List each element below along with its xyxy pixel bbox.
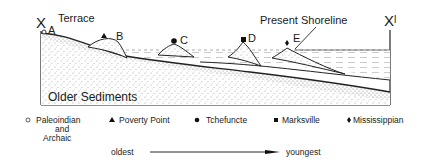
site-c-filled-circle-icon xyxy=(171,38,177,44)
section-start-label: X xyxy=(36,14,46,31)
timeline-start-label: oldest xyxy=(111,147,134,157)
arrow-right-icon xyxy=(265,150,280,154)
timeline-end-label: youngest xyxy=(286,147,321,157)
legend-marksville: Marksville xyxy=(282,115,320,125)
legend-poverty-point: Poverty Point xyxy=(119,115,170,125)
section-end-label: Xˡ xyxy=(384,12,396,29)
cross-section-diagram: X Terrace A B C D E Present Shoreline Xˡ… xyxy=(0,0,439,167)
site-d-square-icon xyxy=(241,37,246,42)
timeline: oldest youngest xyxy=(111,147,321,157)
legend-archaic: Archaic xyxy=(43,133,72,143)
legend-mississippian: Mississippian xyxy=(353,115,404,125)
legend-open-circle-icon xyxy=(26,118,30,122)
older-sediments-label: Older Sediments xyxy=(48,90,137,104)
legend-filled-circle-icon xyxy=(195,118,200,123)
shoreline-label: Present Shoreline xyxy=(260,14,347,26)
site-b-label: B xyxy=(116,30,123,42)
site-c-label: C xyxy=(180,34,188,46)
site-d-label: D xyxy=(248,32,256,44)
terrace-label: Terrace xyxy=(58,12,95,24)
legend-tchefuncte: Tchefuncte xyxy=(206,115,247,125)
site-a-label: A xyxy=(48,24,56,36)
site-e-diamond-icon xyxy=(285,40,289,46)
site-b-triangle-icon xyxy=(101,33,107,38)
legend: Paleoindian and Archaic Poverty Point Tc… xyxy=(26,115,404,143)
legend-square-icon xyxy=(274,118,278,122)
site-e-label: E xyxy=(293,32,300,44)
legend-triangle-icon xyxy=(109,117,115,122)
legend-diamond-icon xyxy=(347,117,351,123)
